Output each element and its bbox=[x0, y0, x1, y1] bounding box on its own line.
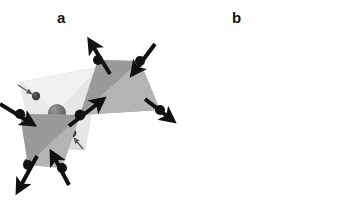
figure-root: a bbox=[0, 0, 348, 201]
node-upper-top-right bbox=[135, 56, 145, 66]
node-lower-bottom-right bbox=[57, 163, 67, 173]
panel-b: b bbox=[160, 0, 348, 201]
node-upper-top-left bbox=[93, 55, 103, 65]
panel-b-label: b bbox=[232, 10, 241, 25]
node-shared-corner bbox=[75, 110, 86, 121]
node-upper-bottom-right bbox=[155, 105, 165, 115]
panel-b-graphic bbox=[0, 0, 188, 201]
node-lower-top-left bbox=[15, 109, 25, 119]
node-lower-bottom-left bbox=[23, 160, 33, 170]
